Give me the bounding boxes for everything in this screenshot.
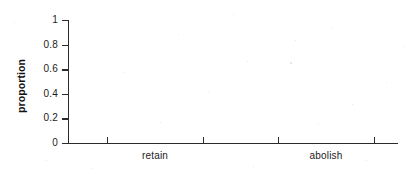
- x-category-label-abolish: abolish: [309, 150, 342, 161]
- y-tick-label: 0.8: [0, 39, 58, 51]
- y-tick-mark: [62, 45, 68, 46]
- y-tick-mark: [62, 118, 68, 119]
- y-tick-label-text: 0.6: [0, 63, 58, 74]
- x-tick-mark: [107, 137, 108, 143]
- y-tick-label: 0.2: [0, 112, 58, 124]
- y-tick-mark: [62, 20, 68, 21]
- y-tick-label-text: 0.4: [0, 88, 58, 99]
- x-tick-mark: [203, 137, 204, 143]
- y-tick-label-text: 0: [0, 137, 58, 148]
- y-tick-label: 0.4: [0, 88, 58, 100]
- x-tick-mark: [278, 137, 279, 143]
- y-tick-label-text: 1: [0, 14, 58, 25]
- y-tick-label-text: 0.8: [0, 39, 58, 50]
- y-tick-mark: [62, 69, 68, 70]
- y-tick-label: 1: [0, 14, 58, 26]
- chart-figure: proportion 1 0.8 0.6 0.4 0.2 0 retain ab…: [0, 0, 420, 184]
- y-axis-line: [68, 20, 69, 144]
- y-tick-label-text: 0.2: [0, 112, 58, 123]
- x-tick-mark: [374, 137, 375, 143]
- x-axis-line: [68, 143, 398, 144]
- y-tick-mark: [62, 94, 68, 95]
- x-category-label-retain: retain: [142, 150, 168, 161]
- plot-area: [69, 20, 398, 142]
- y-tick-label: 0.6: [0, 63, 58, 75]
- y-tick-label: 0: [0, 137, 58, 149]
- y-tick-mark: [62, 143, 68, 144]
